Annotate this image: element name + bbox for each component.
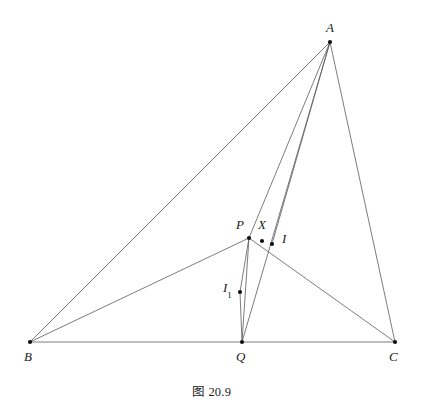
- label-point-I: I: [282, 232, 286, 245]
- side-AC: [330, 42, 395, 342]
- segment-I1Q: [240, 292, 242, 342]
- label-point-I1: I1: [223, 281, 232, 298]
- side-AB: [30, 42, 330, 342]
- segments-group: [30, 42, 395, 342]
- segment-PI1: [240, 238, 249, 292]
- segment-PQ: [242, 238, 249, 342]
- points-group: [28, 40, 397, 344]
- label-point-Q: Q: [236, 350, 245, 363]
- figure-caption: 图 20.9: [0, 381, 423, 400]
- label-point-P: P: [236, 218, 244, 231]
- point-Q: [240, 340, 244, 344]
- segment-PC: [249, 238, 395, 342]
- point-I1: [238, 290, 242, 294]
- point-C: [393, 340, 397, 344]
- point-P: [247, 236, 251, 240]
- label-point-C: C: [389, 350, 398, 363]
- segment-BP: [30, 238, 249, 342]
- label-point-X: X: [258, 218, 266, 231]
- point-B: [28, 340, 32, 344]
- point-I: [270, 242, 274, 246]
- point-A: [328, 40, 332, 44]
- point-X: [260, 239, 264, 243]
- segment-AI: [272, 42, 330, 244]
- geometry-figure: A B C Q P X I I1 图 20.9: [0, 0, 423, 410]
- geometry-diagram: [0, 0, 423, 410]
- label-point-B: B: [24, 350, 32, 363]
- label-point-A: A: [326, 21, 334, 34]
- segment-AP: [249, 42, 330, 238]
